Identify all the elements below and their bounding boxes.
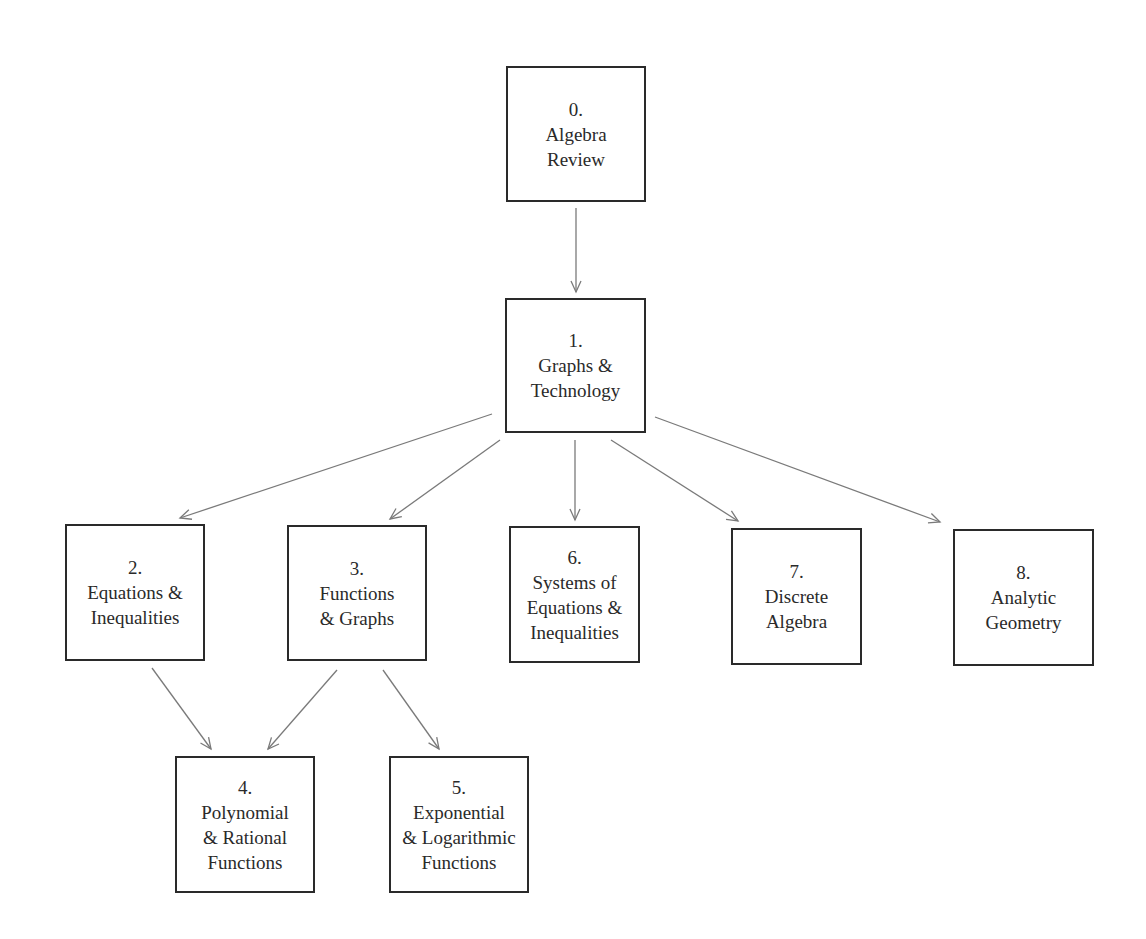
node-number: 1. [568, 328, 582, 353]
node-n4: 4. Polynomial& RationalFunctions [175, 756, 315, 893]
node-label-line: & Rational [203, 825, 287, 850]
arrow-n3-to-n4 [268, 670, 337, 749]
node-label-line: Equations & [527, 595, 623, 620]
node-label-line: Functions [422, 850, 497, 875]
arrow-n1-to-n8 [655, 417, 940, 522]
node-number: 7. [789, 559, 803, 584]
node-number: 3. [350, 556, 364, 581]
node-label-line: & Graphs [320, 606, 394, 631]
node-label: 3. Functions& Graphs [320, 556, 395, 631]
node-label: 7. DiscreteAlgebra [765, 559, 828, 634]
node-label-line: Equations & [87, 580, 183, 605]
node-n3: 3. Functions& Graphs [287, 525, 427, 661]
node-label-line: Review [547, 147, 605, 172]
node-n7: 7. DiscreteAlgebra [731, 528, 862, 665]
node-n5: 5. Exponential& LogarithmicFunctions [389, 756, 529, 893]
node-label-line: Functions [208, 850, 283, 875]
arrow-n1-to-n2 [180, 414, 492, 518]
arrow-n1-to-n3 [390, 440, 500, 519]
course-dependency-diagram: 0. AlgebraReview 1. Graphs &Technology 2… [0, 0, 1146, 939]
node-n1: 1. Graphs &Technology [505, 298, 646, 433]
node-number: 2. [128, 555, 142, 580]
node-label-line: Algebra [766, 609, 827, 634]
node-label-line: Polynomial [201, 800, 289, 825]
node-label-line: Algebra [545, 122, 606, 147]
node-label: 5. Exponential& LogarithmicFunctions [402, 775, 515, 875]
node-label: 1. Graphs &Technology [531, 328, 620, 403]
arrow-n3-to-n5 [383, 670, 439, 749]
node-n0: 0. AlgebraReview [506, 66, 646, 202]
node-label-line: Graphs & [538, 353, 612, 378]
node-label-line: Analytic [991, 585, 1056, 610]
node-label-line: Exponential [413, 800, 505, 825]
node-n2: 2. Equations &Inequalities [65, 524, 205, 661]
node-label-line: & Logarithmic [402, 825, 515, 850]
node-n6: 6. Systems ofEquations &Inequalities [509, 526, 640, 663]
node-label-line: Systems of [533, 570, 617, 595]
node-label-line: Geometry [986, 610, 1062, 635]
node-n8: 8. AnalyticGeometry [953, 529, 1094, 666]
node-label: 2. Equations &Inequalities [87, 555, 183, 630]
node-label-line: Functions [320, 581, 395, 606]
node-label: 0. AlgebraReview [545, 97, 606, 172]
node-label-line: Inequalities [530, 620, 619, 645]
arrow-n2-to-n4 [152, 668, 211, 749]
node-number: 4. [238, 775, 252, 800]
node-label-line: Discrete [765, 584, 828, 609]
node-label: 4. Polynomial& RationalFunctions [201, 775, 289, 875]
arrow-n1-to-n7 [611, 440, 738, 521]
node-label: 8. AnalyticGeometry [986, 560, 1062, 635]
node-number: 6. [567, 545, 581, 570]
node-label: 6. Systems ofEquations &Inequalities [527, 545, 623, 645]
node-number: 8. [1016, 560, 1030, 585]
node-label-line: Inequalities [91, 605, 180, 630]
node-number: 0. [569, 97, 583, 122]
node-label-line: Technology [531, 378, 620, 403]
node-number: 5. [452, 775, 466, 800]
